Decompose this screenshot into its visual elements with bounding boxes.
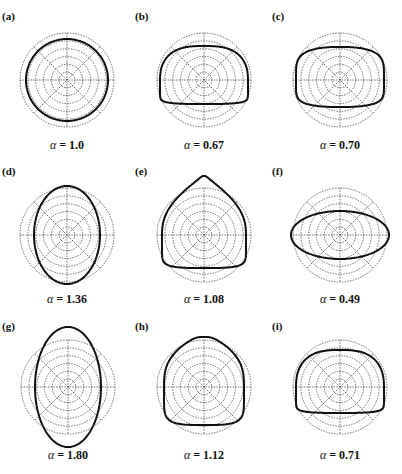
alpha-value: = 1.12 <box>190 448 224 462</box>
alpha-value: = 1.0 <box>56 138 84 152</box>
polar-panel-g <box>21 327 115 447</box>
alpha-caption: α = 1.36 <box>7 292 127 307</box>
polar-panel-a <box>20 33 114 127</box>
panel-label: (i) <box>272 320 282 332</box>
polar-panel-e <box>157 176 251 282</box>
polar-panel-b <box>157 33 251 127</box>
panel-label: (f) <box>272 165 283 177</box>
alpha-caption: α = 0.49 <box>280 292 400 307</box>
alpha-value: = 0.71 <box>326 448 360 462</box>
alpha-caption: α = 1.80 <box>8 448 128 463</box>
polar-panel-c <box>293 33 387 127</box>
figure-canvas <box>0 0 402 474</box>
alpha-caption: α = 1.08 <box>144 292 264 307</box>
panel-label: (g) <box>2 320 15 332</box>
panel-label: (c) <box>272 10 284 22</box>
panel-label: (e) <box>135 165 147 177</box>
panel-label: (h) <box>135 320 148 332</box>
alpha-value: = 1.08 <box>190 292 224 306</box>
polar-panel-i <box>293 340 387 434</box>
panel-label: (d) <box>2 165 15 177</box>
alpha-value: = 1.80 <box>54 448 88 462</box>
alpha-value: = 1.36 <box>53 292 87 306</box>
alpha-value: = 0.49 <box>326 292 360 306</box>
alpha-caption: α = 1.0 <box>7 138 127 153</box>
polar-panel-f <box>291 188 389 282</box>
alpha-caption: α = 0.70 <box>280 138 400 153</box>
alpha-caption: α = 0.67 <box>144 138 264 153</box>
alpha-value: = 0.67 <box>190 138 224 152</box>
alpha-caption: α = 1.12 <box>144 448 264 463</box>
panel-label: (a) <box>2 10 15 22</box>
polar-panel-h <box>157 337 251 434</box>
panel-label: (b) <box>135 10 148 22</box>
alpha-caption: α = 0.71 <box>280 448 400 463</box>
alpha-value: = 0.70 <box>326 138 360 152</box>
polar-panel-d <box>20 186 114 284</box>
